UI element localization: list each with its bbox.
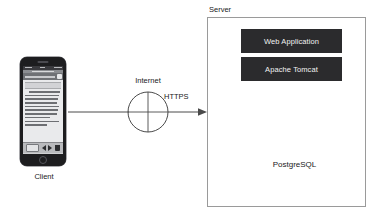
previous-icon	[42, 145, 46, 151]
https-protocol-label: HTTPS	[164, 92, 189, 101]
https-arrowhead-icon	[198, 108, 207, 115]
web-application-label: Web Application	[264, 37, 319, 46]
web-application-box: Web Application	[241, 29, 342, 53]
smartphone-mockup	[20, 57, 66, 166]
apache-tomcat-label: Apache Tomcat	[265, 65, 318, 74]
next-icon	[48, 145, 52, 151]
phone-home-button	[39, 156, 47, 164]
phone-earpiece	[38, 61, 49, 63]
content-heading-placeholder	[25, 82, 61, 89]
phone-screen	[23, 66, 63, 154]
client-group: Client	[18, 55, 70, 200]
toolbar-button	[26, 144, 39, 152]
internet-label: Internet	[118, 76, 178, 85]
postgresql-label: PostgreSQL	[263, 160, 326, 169]
phone-content-area	[23, 80, 63, 142]
app-nav-bar	[23, 73, 63, 80]
server-label: Server	[209, 5, 231, 14]
app-logo-icon	[57, 74, 62, 79]
postgresql-database: PostgreSQL	[263, 141, 326, 187]
client-label: Client	[18, 172, 70, 181]
trash-icon	[55, 145, 60, 151]
apache-tomcat-box: Apache Tomcat	[241, 57, 342, 81]
phone-bottom-toolbar	[23, 142, 63, 153]
server-boundary-box: Web Application Apache Tomcat PostgreSQL	[207, 17, 366, 207]
